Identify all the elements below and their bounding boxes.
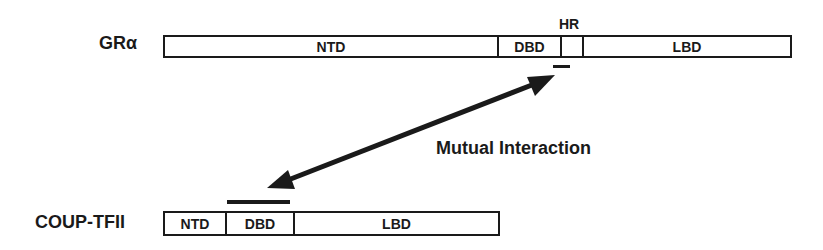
coup-lbd-label: LBD <box>382 216 411 232</box>
coup-tfii-label: COUP-TFII <box>35 212 125 233</box>
coup-ntd-label: NTD <box>181 216 210 232</box>
coup-ntd-domain: NTD <box>165 213 227 234</box>
coup-tfii-domain-bar: NTD DBD LBD <box>163 211 500 236</box>
coup-lbd-domain: LBD <box>295 213 498 234</box>
coup-interaction-region-marker <box>227 200 290 204</box>
coup-dbd-domain: DBD <box>227 213 295 234</box>
coup-dbd-label: DBD <box>245 216 275 232</box>
mutual-interaction-label: Mutual Interaction <box>436 138 591 159</box>
